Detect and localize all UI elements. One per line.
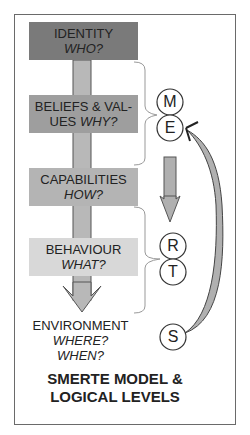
level-environment-question: WHERE? xyxy=(28,333,133,348)
level-environment: ENVIRONMENT WHERE? WHEN? xyxy=(28,318,133,363)
level-beliefs-question: WHY? xyxy=(80,114,118,129)
level-environment-question2: WHEN? xyxy=(28,348,133,363)
diagram-title: SMERTE MODEL & LOGICAL LEVELS xyxy=(30,370,200,406)
level-capabilities-question: HOW? xyxy=(64,187,103,202)
circle-label-s: S xyxy=(160,324,186,350)
title-line-1: SMERTE MODEL & xyxy=(30,370,200,388)
level-capabilities-label: CAPABILITIES xyxy=(40,172,126,187)
level-beliefs-label: BELIEFS & VAL- xyxy=(35,99,132,114)
level-identity-label: IDENTITY xyxy=(54,26,113,41)
level-identity-question: WHO? xyxy=(64,41,103,56)
level-behaviour: BEHAVIOUR WHAT? xyxy=(29,238,138,276)
circle-label-r: R xyxy=(160,233,186,259)
title-line-2: LOGICAL LEVELS xyxy=(30,388,200,406)
circle-label-t: T xyxy=(160,259,186,285)
level-identity: IDENTITY WHO? xyxy=(29,22,138,60)
level-beliefs-label2: UES xyxy=(50,114,77,129)
e-to-r-down-arrow xyxy=(160,157,180,222)
level-beliefs-values: BELIEFS & VAL- UES WHY? xyxy=(29,95,138,133)
circle-label-m: M xyxy=(157,89,183,115)
level-behaviour-question: WHAT? xyxy=(61,257,106,272)
s-to-e-curved-arrow xyxy=(185,122,223,333)
level-capabilities: CAPABILITIES HOW? xyxy=(29,168,138,206)
level-behaviour-label: BEHAVIOUR xyxy=(46,242,122,257)
circle-label-e: E xyxy=(157,115,183,141)
level-environment-label: ENVIRONMENT xyxy=(28,318,133,333)
